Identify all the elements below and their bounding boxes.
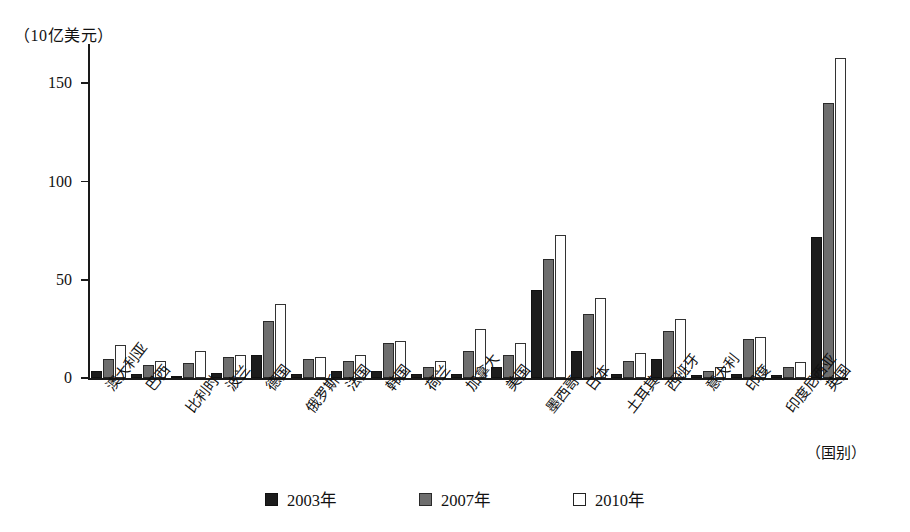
legend-item: 2003年: [265, 487, 337, 511]
y-axis-unit-label: （10亿美元）: [14, 22, 114, 46]
bar: [571, 351, 582, 379]
bar-group: [648, 44, 688, 378]
bar-group: [808, 44, 848, 378]
legend-label: 2007年: [441, 487, 491, 511]
bar: [835, 58, 846, 378]
bar: [451, 374, 462, 378]
y-tick-label-group: 050100150: [0, 44, 88, 380]
legend-item: 2010年: [573, 487, 645, 511]
plot-area: 050100150: [88, 44, 848, 380]
legend-item: 2007年: [419, 487, 491, 511]
bar: [543, 259, 554, 379]
bar: [771, 375, 782, 378]
bar-group: [728, 44, 768, 378]
bar: [131, 374, 142, 378]
legend-label: 2010年: [595, 487, 645, 511]
bar: [611, 374, 622, 378]
bar: [691, 375, 702, 378]
x-axis-title: （国别）: [806, 441, 866, 462]
white-outline-square-icon: [573, 493, 586, 506]
bar-group: [688, 44, 728, 378]
bar-group: [488, 44, 528, 378]
y-axis-tick-label: 50: [56, 271, 72, 289]
y-axis-tick-label: 0: [64, 369, 72, 387]
bar: [291, 374, 302, 378]
bars-layer: [88, 44, 848, 378]
bar-group: [248, 44, 288, 378]
bar-group: [128, 44, 168, 378]
bar: [555, 235, 566, 378]
bar-group: [528, 44, 568, 378]
bar: [731, 374, 742, 378]
bar-chart: （10亿美元） 050100150 澳大利亚巴西比利时波兰德国俄罗斯法国韩国荷兰…: [0, 0, 910, 532]
bar-group: [608, 44, 648, 378]
bar-group: [368, 44, 408, 378]
bar: [171, 376, 182, 378]
legend-label: 2003年: [287, 487, 337, 511]
bar-group: [208, 44, 248, 378]
bar: [783, 367, 794, 379]
bar: [823, 103, 834, 378]
bar: [531, 290, 542, 378]
bar-group: [88, 44, 128, 378]
chart-legend: 2003年2007年2010年: [0, 487, 910, 511]
bar: [91, 371, 102, 379]
bar-group: [408, 44, 448, 378]
bar-group: [448, 44, 488, 378]
bar: [303, 359, 314, 379]
black-filled-square-icon: [265, 493, 278, 506]
gray-filled-square-icon: [419, 493, 432, 506]
bar-group: [288, 44, 328, 378]
bar-group: [328, 44, 368, 378]
bar-group: [168, 44, 208, 378]
y-axis-tick-label: 150: [48, 74, 72, 92]
bar: [411, 374, 422, 378]
x-axis-category-labels: 澳大利亚巴西比利时波兰德国俄罗斯法国韩国荷兰加拿大美国墨西哥日本土耳其西班牙意大…: [88, 382, 848, 472]
bar-group: [568, 44, 608, 378]
y-axis-tick-label: 100: [48, 173, 72, 191]
bar: [623, 361, 634, 379]
bar: [183, 363, 194, 379]
bar-group: [768, 44, 808, 378]
